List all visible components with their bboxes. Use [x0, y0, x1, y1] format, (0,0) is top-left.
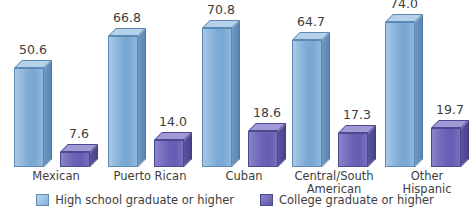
bar-front-face: [108, 36, 138, 167]
value-label-hs-4: 74.0: [374, 0, 434, 11]
bar-cg-0: [60, 152, 90, 167]
value-label-hs-1: 66.8: [97, 10, 157, 25]
plot-area: 50.67.666.814.070.818.664.717.374.019.7: [0, 0, 470, 168]
bar-side-face: [461, 120, 469, 167]
legend-item-highschool: High school graduate or higher: [36, 193, 234, 207]
value-label-cg-2: 18.6: [237, 105, 297, 120]
category-label-4: OtherHispanic: [367, 170, 470, 195]
bar-hs-4: [385, 22, 415, 167]
category-label-line: American: [307, 182, 362, 196]
bar-hs-0: [14, 68, 44, 167]
category-label-line: Mexican: [32, 169, 79, 183]
value-label-cg-0: 7.6: [49, 126, 109, 141]
bar-front-face: [248, 131, 278, 167]
value-label-hs-0: 50.6: [3, 42, 63, 57]
bar-cg-3: [338, 133, 368, 167]
bar-side-face: [138, 28, 146, 167]
category-label-line: Hispanic: [403, 182, 452, 196]
bar-side-face: [232, 20, 240, 167]
bar-cg-1: [154, 140, 184, 167]
bar-front-face: [292, 40, 322, 167]
value-label-hs-2: 70.8: [191, 2, 251, 17]
bar-side-face: [415, 14, 423, 167]
bar-cg-2: [248, 131, 278, 167]
value-label-cg-1: 14.0: [143, 114, 203, 129]
bar-front-face: [385, 22, 415, 167]
bar-chart: 50.67.666.814.070.818.664.717.374.019.7 …: [0, 0, 470, 212]
value-label-cg-4: 19.7: [420, 102, 470, 117]
value-label-hs-3: 64.7: [281, 14, 341, 29]
bar-front-face: [60, 152, 90, 167]
bar-front-face: [154, 140, 184, 167]
bar-front-face: [202, 28, 232, 167]
bar-front-face: [14, 68, 44, 167]
legend-label-highschool: High school graduate or higher: [55, 193, 234, 207]
bar-hs-1: [108, 36, 138, 167]
legend-swatch-highschool-icon: [36, 194, 49, 206]
bar-side-face: [44, 60, 52, 167]
bar-front-face: [431, 128, 461, 167]
bar-cg-4: [431, 128, 461, 167]
value-label-cg-3: 17.3: [327, 107, 387, 122]
bar-hs-3: [292, 40, 322, 167]
bar-side-face: [322, 32, 330, 167]
category-label-line: Cuban: [226, 169, 263, 183]
bar-front-face: [338, 133, 368, 167]
legend-swatch-college-icon: [260, 194, 273, 206]
category-label-line: Puerto Rican: [114, 169, 187, 183]
bar-hs-2: [202, 28, 232, 167]
chart-legend: High school graduate or higher College g…: [0, 193, 470, 207]
